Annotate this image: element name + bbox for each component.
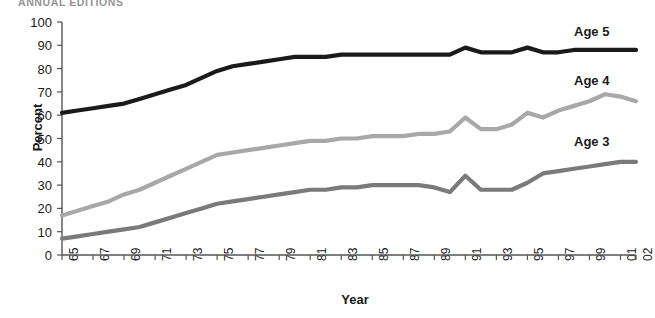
series-line-age-4 <box>62 94 636 215</box>
series-label-age-4: Age 4 <box>574 73 609 88</box>
series-line-age-3 <box>62 162 636 239</box>
x-axis-ticks <box>62 255 636 260</box>
series-line-age-5 <box>62 48 636 113</box>
y-axis-ticks <box>57 22 62 255</box>
series-label-age-5: Age 5 <box>574 24 609 39</box>
series-label-age-3: Age 3 <box>574 134 609 149</box>
data-series-group <box>62 48 636 239</box>
